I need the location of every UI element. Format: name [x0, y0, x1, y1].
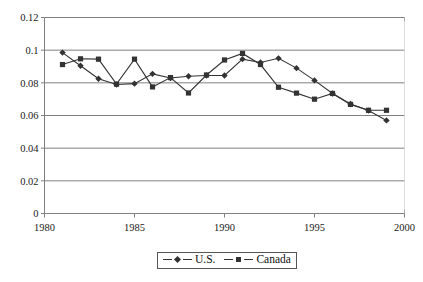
- y-axis-tick-label: 0: [33, 208, 38, 219]
- data-point-square: [366, 108, 371, 113]
- y-axis-tick-label: 0.04: [20, 143, 39, 154]
- y-axis-tick-label: 0.08: [20, 78, 38, 89]
- data-point-square: [204, 72, 209, 77]
- legend-entry-canada: Canada: [224, 254, 290, 266]
- y-axis-tick-label: 0.06: [20, 110, 38, 121]
- data-point-square: [348, 102, 353, 107]
- data-point-diamond: [149, 71, 155, 77]
- data-point-square: [114, 82, 119, 87]
- data-point-diamond: [131, 80, 137, 86]
- data-point-diamond: [293, 65, 299, 71]
- chart-legend: U.S. Canada: [157, 252, 297, 269]
- data-point-square: [186, 90, 191, 95]
- legend-label-us: U.S.: [195, 254, 215, 266]
- data-point-diamond: [383, 117, 389, 123]
- legend-line-icon: [183, 259, 192, 260]
- data-point-square: [276, 85, 281, 90]
- data-point-diamond: [185, 73, 191, 79]
- legend-entry-us: U.S.: [163, 254, 215, 266]
- axes-group: [41, 18, 405, 218]
- data-point-square: [312, 97, 317, 102]
- y-axis-tick-labels: 00.020.040.060.080.10.12: [20, 12, 39, 219]
- data-point-square: [240, 51, 245, 56]
- x-axis-tick-label: 1980: [34, 222, 55, 233]
- data-point-square: [96, 57, 101, 62]
- y-axis-tick-label: 0.12: [20, 12, 38, 23]
- x-axis-tick-label: 1995: [304, 222, 325, 233]
- data-point-diamond: [275, 55, 281, 61]
- x-axis-tick-label: 2000: [394, 222, 415, 233]
- square-marker-icon: [236, 257, 241, 262]
- gridlines-group: [45, 18, 405, 181]
- data-point-square: [222, 57, 227, 62]
- y-axis-tick-label: 0.02: [20, 176, 38, 187]
- data-point-square: [132, 57, 137, 62]
- data-point-square: [294, 91, 299, 96]
- y-axis-tick-label: 0.1: [25, 45, 38, 56]
- legend-line-icon: [224, 259, 233, 260]
- data-point-square: [330, 91, 335, 96]
- data-point-square: [60, 62, 65, 67]
- x-axis-tick-labels: 19801985199019952000: [34, 222, 415, 233]
- data-point-square: [150, 84, 155, 89]
- diamond-marker-icon: [174, 256, 181, 263]
- legend-label-canada: Canada: [256, 254, 290, 266]
- data-point-square: [78, 56, 83, 61]
- x-axis-tick-label: 1985: [124, 222, 145, 233]
- data-point-square: [258, 62, 263, 67]
- legend-line-icon: [244, 259, 253, 260]
- chart-container: 00.020.040.060.080.10.12 198019851990199…: [0, 0, 423, 282]
- series-line: [63, 53, 387, 121]
- x-axis-tick-label: 1990: [214, 222, 235, 233]
- legend-line-icon: [163, 259, 172, 260]
- chart-plot-area: 00.020.040.060.080.10.12 198019851990199…: [0, 0, 423, 282]
- data-point-square: [384, 108, 389, 113]
- data-point-square: [168, 75, 173, 80]
